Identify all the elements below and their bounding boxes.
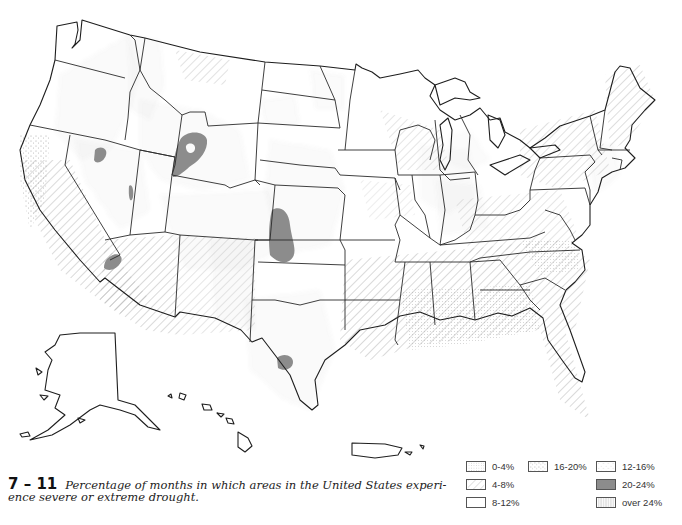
legend-label: 12-16% [622,461,655,472]
legend-label: 16-20% [554,461,587,472]
hawaii [168,393,252,452]
legend-item-0-4: 0-4% [466,459,514,473]
legend-item-16-20: 16-20% [528,459,587,473]
legend-label: 8-12% [492,497,519,508]
legend-item-4-8: 4-8% [466,477,514,491]
legend-item-over-24: over 24% [596,495,662,509]
blank-swatch-icon [466,497,486,508]
legend-item-20-24: 20-24% [596,477,655,491]
figure-caption: 7 – 11Percentage of months in which area… [8,478,448,503]
vertical-lines-swatch-icon [596,497,616,508]
legend-item-8-12: 8-12% [466,495,519,509]
light-stipple-swatch-icon [596,461,616,472]
legend-label: over 24% [622,497,662,508]
legend-label: 4-8% [492,479,514,490]
legend-item-12-16: 12-16% [596,459,655,473]
pattern-layer [20,35,655,420]
caption-line-2: ence severe or extreme drought. [8,490,199,504]
alaska [20,333,160,440]
fine-dots-swatch-icon [466,461,486,472]
legend-label: 20-24% [622,479,655,490]
legend: 0-4% 4-8% 8-12% 16-20% 12-16% 20-24% ove… [466,459,682,519]
diagonal-hatch-swatch-icon [466,479,486,490]
legend-label: 0-4% [492,461,514,472]
dense-stipple-swatch-icon [528,461,548,472]
drought-map [0,0,682,525]
solid-gray-swatch-icon [596,479,616,490]
puerto-rico [352,443,424,458]
